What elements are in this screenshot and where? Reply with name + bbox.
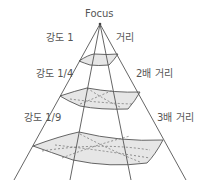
- area-patch-2: [60, 88, 140, 109]
- distance-3-label: 3배 거리: [157, 113, 194, 123]
- distance-2-label: 2배 거리: [136, 69, 173, 79]
- intensity-1-9-label: 강도 1/9: [24, 113, 61, 123]
- inverse-square-diagram: Focus 강도 1 거리 강도 1/4 2배 거리 강도 1/9 3배 거리: [0, 0, 204, 191]
- focus-label: Focus: [85, 9, 114, 19]
- area-patch-1: [79, 54, 118, 66]
- pyramid-diagram: [0, 0, 204, 191]
- intensity-1-4-label: 강도 1/4: [36, 69, 73, 79]
- focus-point: [99, 23, 102, 26]
- distance-1-label: 거리: [116, 33, 134, 43]
- intensity-1-label: 강도 1: [46, 33, 74, 43]
- area-patch-3: [33, 132, 163, 165]
